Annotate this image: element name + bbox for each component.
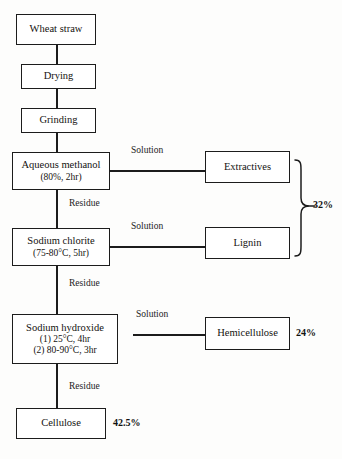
- node-cellulose[interactable]: Cellulose: [16, 408, 106, 439]
- node-lignin[interactable]: Lignin: [205, 227, 290, 259]
- node-label: Extractives: [224, 161, 271, 173]
- node-sodium-chlorite[interactable]: Sodium chlorite (75-80°C, 5hr): [12, 228, 110, 266]
- connector-methanol-to-chlorite: [56, 190, 58, 228]
- edge-label-solution-lignin: Solution: [131, 221, 163, 231]
- node-aqueous-methanol[interactable]: Aqueous methanol (80%, 2hr): [12, 152, 110, 190]
- node-label: Sodium hydroxide: [26, 322, 104, 334]
- node-grinding[interactable]: Grinding: [21, 108, 96, 133]
- node-sublabel: (80%, 2hr): [40, 172, 81, 183]
- connector-wheatstraw-to-drying: [56, 45, 58, 64]
- connector-methanol-to-extractives: [110, 170, 205, 172]
- edge-label-residue-cellulose: Residue: [69, 381, 100, 391]
- node-sublabel: (75-80°C, 5hr): [33, 248, 89, 259]
- edge-label-solution-extractives: Solution: [131, 145, 163, 155]
- node-hemicellulose[interactable]: Hemicellulose: [205, 317, 290, 350]
- flowchart-canvas: Wheat straw Drying Grinding Aqueous meth…: [0, 0, 342, 459]
- yield-extractives-lignin: 32%: [313, 199, 333, 210]
- node-sublabel-1: (1) 25°C, 4hr: [40, 334, 91, 345]
- connector-chlorite-to-hydroxide: [56, 266, 58, 314]
- node-label: Cellulose: [41, 417, 81, 429]
- yield-cellulose: 42.5%: [113, 417, 141, 428]
- node-label: Wheat straw: [30, 23, 83, 35]
- node-label: Aqueous methanol: [21, 159, 100, 171]
- node-sublabel-2: (2) 80-90°C, 3hr: [33, 345, 96, 356]
- connector-hydroxide-to-hemicellulose: [133, 334, 205, 336]
- node-label: Lignin: [234, 237, 262, 249]
- node-extractives[interactable]: Extractives: [205, 151, 290, 183]
- node-label: Hemicellulose: [217, 327, 278, 339]
- node-wheat-straw[interactable]: Wheat straw: [16, 14, 96, 45]
- connector-hydroxide-to-cellulose: [56, 364, 58, 408]
- node-label: Grinding: [40, 114, 78, 126]
- node-label: Sodium chlorite: [27, 235, 94, 247]
- connector-grinding-to-methanol: [56, 133, 58, 152]
- node-label: Drying: [44, 70, 74, 82]
- connector-chlorite-to-lignin: [110, 246, 205, 248]
- edge-label-residue-chlorite: Residue: [69, 198, 100, 208]
- node-sodium-hydroxide[interactable]: Sodium hydroxide (1) 25°C, 4hr (2) 80-90…: [12, 314, 118, 364]
- edge-label-residue-hydroxide: Residue: [69, 278, 100, 288]
- edge-label-solution-hemicellulose: Solution: [136, 309, 168, 319]
- yield-hemicellulose: 24%: [296, 327, 316, 338]
- node-drying[interactable]: Drying: [21, 64, 96, 89]
- connector-drying-to-grinding: [56, 89, 58, 108]
